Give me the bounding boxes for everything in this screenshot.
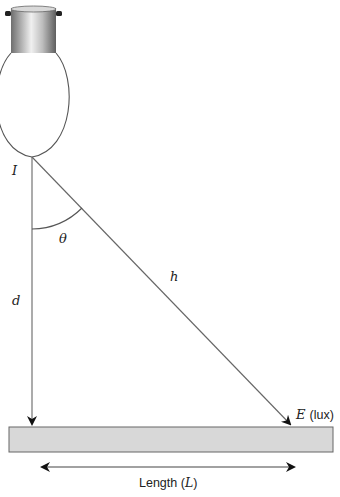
lighting-diagram xyxy=(0,0,340,497)
length-var: L xyxy=(185,475,193,490)
illuminance-var: E xyxy=(296,407,306,422)
cap-handle-right-icon xyxy=(56,11,62,16)
hypotenuse-label: h xyxy=(170,269,178,284)
length-prefix: Length ( xyxy=(139,476,185,490)
length-suffix: ) xyxy=(193,476,197,490)
illuminance-label: E (lux) xyxy=(296,405,334,423)
lamp-cap xyxy=(5,6,62,53)
length-label: Length (L) xyxy=(139,475,197,490)
cap-handle-left-icon xyxy=(5,11,11,16)
angle-arc xyxy=(32,208,82,229)
hypotenuse-line xyxy=(32,157,290,424)
work-surface xyxy=(9,427,333,452)
cap-rim xyxy=(11,6,56,12)
distance-label: d xyxy=(12,293,20,308)
intensity-label: I xyxy=(12,163,17,178)
lamp-bulb-icon xyxy=(0,53,69,157)
illuminance-unit: (lux) xyxy=(310,408,334,422)
cap-body xyxy=(11,8,56,53)
angle-label: θ xyxy=(59,231,67,246)
